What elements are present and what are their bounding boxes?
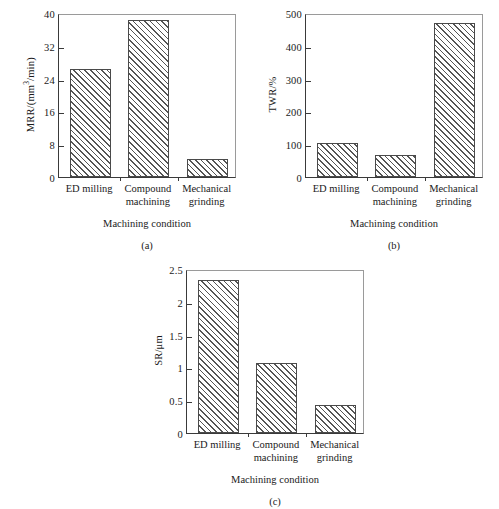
bar-c-0 — [198, 280, 239, 433]
y-axis-title-a-sup: 3 — [22, 81, 31, 85]
x-tick-b-2 — [425, 177, 426, 181]
y-tick-a-3 — [59, 81, 64, 82]
bar-a-1 — [128, 20, 169, 177]
panel-caption-a: (a) — [58, 240, 236, 251]
x-axis-title-c: Machining condition — [186, 474, 364, 485]
y-tick-c-4 — [187, 304, 192, 305]
bar-a-2 — [187, 159, 228, 177]
x-tick-c-2 — [306, 433, 307, 437]
y-tick-label-c-1: 0.5 — [169, 397, 183, 408]
bar-b-2 — [434, 23, 475, 177]
chart-panel-b: 0100200300400500 TWR/% Machining conditi… — [249, 0, 499, 258]
chart-panel-c: 00.511.522.5 SR/μm Machining condition (… — [124, 258, 380, 509]
bar-a-0 — [70, 69, 111, 177]
x-tick-b-1 — [367, 177, 368, 181]
y-axis-title-a-pre: MRR/(mm — [25, 85, 36, 133]
x-axis-title-b: Machining condition — [305, 218, 483, 229]
panel-caption-b: (b) — [305, 240, 483, 251]
bar-group-c — [187, 271, 363, 433]
plot-area-c: 00.511.522.5 — [186, 270, 364, 434]
x-category-label-b-2: Mechanicalgrinding — [404, 183, 499, 208]
y-tick-label-c-5: 2.5 — [169, 266, 183, 277]
y-tick-a-1 — [59, 146, 64, 147]
panel-caption-c: (c) — [186, 496, 364, 507]
bar-group-b — [306, 15, 482, 177]
plot-area-a: 0816243240 — [58, 14, 236, 178]
y-axis-title-a-post: /min) — [25, 57, 36, 81]
y-tick-label-c-2: 1 — [178, 364, 183, 375]
y-tick-c-3 — [187, 337, 192, 338]
y-tick-label-b-3: 300 — [286, 75, 302, 86]
x-category-label-a-2: Mechanicalgrinding — [157, 183, 257, 208]
y-tick-b-1 — [306, 146, 311, 147]
x-tick-a-1 — [120, 177, 121, 181]
y-tick-c-1 — [187, 402, 192, 403]
plot-area-b: 0100200300400500 — [305, 14, 483, 178]
y-tick-label-c-4: 2 — [178, 299, 183, 310]
y-tick-label-b-1: 100 — [286, 141, 302, 152]
y-tick-c-2 — [187, 369, 192, 370]
bar-c-2 — [315, 405, 356, 433]
y-tick-a-2 — [59, 113, 64, 114]
y-tick-label-a-3: 24 — [44, 75, 55, 86]
x-tick-c-1 — [248, 433, 249, 437]
y-tick-b-2 — [306, 113, 311, 114]
x-tick-a-2 — [178, 177, 179, 181]
x-category-label-c-2: Mechanicalgrinding — [285, 439, 385, 464]
y-tick-label-b-2: 200 — [286, 108, 302, 119]
x-axis-title-a: Machining condition — [58, 218, 236, 229]
y-axis-title-c: SR/μm — [153, 311, 164, 391]
bar-c-1 — [256, 363, 297, 433]
bar-b-1 — [375, 155, 416, 177]
bar-group-a — [59, 15, 235, 177]
y-tick-a-4 — [59, 48, 64, 49]
y-tick-label-c-3: 1.5 — [169, 331, 183, 342]
bar-b-0 — [317, 143, 358, 177]
chart-panel-a: 0816243240 MRR/(mm3/min) Machining condi… — [0, 0, 250, 258]
y-tick-b-4 — [306, 48, 311, 49]
y-tick-label-b-4: 400 — [286, 43, 302, 54]
y-tick-b-3 — [306, 81, 311, 82]
y-tick-label-a-4: 32 — [44, 43, 55, 54]
y-tick-label-a-1: 8 — [50, 141, 55, 152]
y-axis-title-b: TWR/% — [267, 55, 278, 135]
y-tick-label-a-2: 16 — [44, 108, 55, 119]
y-tick-label-b-5: 500 — [286, 10, 302, 21]
y-axis-title-a: MRR/(mm3/min) — [22, 40, 36, 150]
y-tick-label-a-5: 40 — [44, 10, 55, 21]
